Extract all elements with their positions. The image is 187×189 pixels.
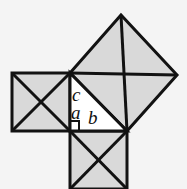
- geometry-canvas: c a b: [0, 0, 187, 189]
- label-leg-a: a: [71, 102, 81, 123]
- square-on-leg-b: [70, 131, 127, 189]
- square-on-leg-a: [12, 73, 70, 131]
- label-leg-b: b: [88, 107, 98, 128]
- pythagorean-figure: c a b: [0, 0, 187, 189]
